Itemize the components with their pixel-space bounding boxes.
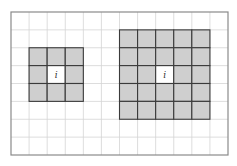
neighbor-cell (174, 30, 192, 48)
neighbor-cell (156, 48, 174, 66)
neighbor-cell (174, 101, 192, 119)
neighbor-cell (29, 84, 47, 102)
neighborhood-3x3: i (29, 48, 83, 102)
neighbor-cell (138, 48, 156, 66)
neighborhood-blocks: ii (29, 30, 210, 119)
neighbor-cell (156, 101, 174, 119)
neighbor-cell (65, 84, 83, 102)
neighbor-cell (65, 48, 83, 66)
neighbor-cell (29, 48, 47, 66)
neighbor-cell (156, 84, 174, 102)
neighbor-cell (156, 30, 174, 48)
neighbor-cell (120, 48, 138, 66)
neighbor-cell (174, 84, 192, 102)
neighbor-cell (29, 66, 47, 84)
neighborhood-diagram: ii (0, 0, 237, 166)
neighbor-cell (120, 84, 138, 102)
neighbor-cell (192, 66, 210, 84)
center-cell-label: i (163, 70, 166, 80)
neighbor-cell (65, 66, 83, 84)
neighbor-cell (47, 84, 65, 102)
neighbor-cell (138, 30, 156, 48)
center-cell-label: i (55, 70, 58, 80)
neighbor-cell (192, 30, 210, 48)
neighborhood-5x5: i (120, 30, 210, 119)
neighbor-cell (138, 66, 156, 84)
neighbor-cell (174, 66, 192, 84)
neighbor-cell (138, 101, 156, 119)
neighbor-cell (120, 30, 138, 48)
neighbor-cell (120, 101, 138, 119)
neighbor-cell (192, 84, 210, 102)
neighbor-cell (192, 101, 210, 119)
neighbor-cell (174, 48, 192, 66)
neighbor-cell (192, 48, 210, 66)
neighbor-cell (138, 84, 156, 102)
neighbor-cell (120, 66, 138, 84)
neighbor-cell (47, 48, 65, 66)
